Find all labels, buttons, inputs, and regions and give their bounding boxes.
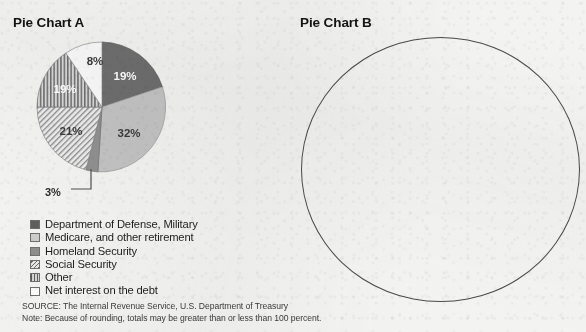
legend-item-social-security: Social Security: [30, 258, 290, 271]
legend-swatch-other: [30, 273, 40, 282]
legend-item-defense: Department of Defense, Military: [30, 218, 290, 231]
legend: Department of Defense, Military Medicare…: [30, 218, 290, 298]
page-title-chart-b: Pie Chart B: [300, 15, 372, 30]
legend-swatch-social-security: [30, 260, 40, 269]
legend-item-medicare: Medicare, and other retirement: [30, 231, 290, 244]
legend-swatch-defense: [30, 220, 40, 229]
page-title-chart-a: Pie Chart A: [13, 15, 84, 30]
legend-label-homeland-security: Homeland Security: [45, 245, 137, 258]
legend-swatch-medicare: [30, 233, 40, 242]
pie-label-homeland-security: 3%: [45, 186, 61, 198]
legend-label-medicare: Medicare, and other retirement: [45, 231, 193, 244]
legend-label-net-interest: Net interest on the debt: [45, 284, 158, 297]
source-line: SOURCE: The Internal Revenue Service, U.…: [22, 300, 492, 312]
footnotes: SOURCE: The Internal Revenue Service, U.…: [22, 300, 492, 325]
legend-swatch-homeland-security: [30, 247, 40, 256]
legend-label-defense: Department of Defense, Military: [45, 218, 198, 231]
note-line: Note: Because of rounding, totals may be…: [22, 312, 492, 324]
legend-item-homeland-security: Homeland Security: [30, 245, 290, 258]
legend-swatch-net-interest: [30, 287, 40, 296]
legend-label-other: Other: [45, 271, 72, 284]
legend-item-net-interest: Net interest on the debt: [30, 284, 290, 297]
legend-item-other: Other: [30, 271, 290, 284]
pie-chart-b-empty-circle[interactable]: [301, 37, 580, 302]
legend-label-social-security: Social Security: [45, 258, 117, 271]
